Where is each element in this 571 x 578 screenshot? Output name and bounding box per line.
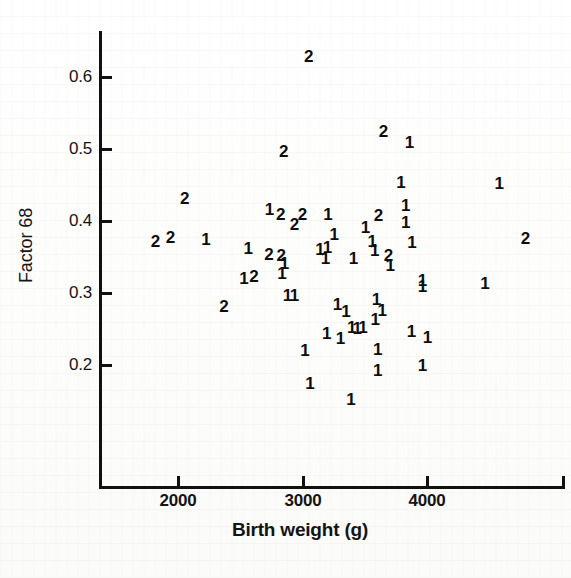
scatter-plot-figure: 0.20.30.40.50.6 200030004000 Factor 68 B… [0, 0, 571, 578]
data-point-marker: 1 [371, 362, 385, 379]
data-point-marker: 2 [149, 233, 163, 250]
data-point-marker: 1 [399, 197, 413, 214]
data-point-marker: 1 [320, 325, 334, 342]
data-point-marker: 2 [371, 207, 385, 224]
data-point-marker: 1 [287, 287, 301, 304]
data-point-marker: 1 [403, 134, 417, 151]
data-point-marker: 1 [356, 319, 370, 336]
data-point-marker: 1 [421, 329, 435, 346]
data-point-marker: 1 [383, 257, 397, 274]
data-point-marker: 1 [404, 323, 418, 340]
plot-area: 2212112112212121122211111112221111112111… [0, 0, 571, 578]
data-point-marker: 2 [274, 206, 288, 223]
data-point-marker: 2 [277, 143, 291, 160]
data-point-marker: 1 [321, 206, 335, 223]
data-point-marker: 1 [199, 231, 213, 248]
data-point-marker: 1 [405, 234, 419, 251]
data-point-marker: 2 [164, 229, 178, 246]
data-point-marker: 2 [287, 216, 301, 233]
data-point-marker: 2 [376, 123, 390, 140]
data-point-marker: 1 [368, 242, 382, 259]
data-point-marker: 1 [298, 342, 312, 359]
data-point-marker: 1 [347, 250, 361, 267]
data-point-marker: 1 [371, 341, 385, 358]
data-point-marker: 2 [217, 298, 231, 315]
data-point-marker: 2 [178, 190, 192, 207]
data-point-marker: 1 [394, 174, 408, 191]
data-point-marker: 1 [303, 375, 317, 392]
data-point-marker: 1 [319, 250, 333, 267]
data-point-marker: 1 [492, 175, 506, 192]
data-point-marker: 1 [344, 391, 358, 408]
data-point-marker: 1 [275, 265, 289, 282]
data-point-marker: 1 [478, 275, 492, 292]
data-point-marker: 2 [302, 48, 316, 65]
data-point-marker: 2 [518, 230, 532, 247]
data-point-marker: 1 [241, 240, 255, 257]
data-point-marker: 2 [247, 268, 261, 285]
data-point-marker: 1 [334, 330, 348, 347]
data-point-marker: 1 [416, 357, 430, 374]
data-point-marker: 1 [368, 311, 382, 328]
data-point-marker: 1 [399, 214, 413, 231]
data-point-marker: 1 [416, 278, 430, 295]
